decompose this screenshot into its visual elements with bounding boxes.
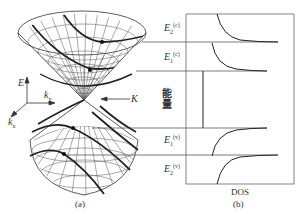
lower-cone xyxy=(30,100,138,195)
caption-b: (b) xyxy=(233,200,244,209)
upper-cone xyxy=(18,11,146,100)
energy-axis-label-cn: 能量 xyxy=(160,88,170,110)
level-label-E1v: E1(v) xyxy=(164,134,180,147)
dos-axis-label: DOS xyxy=(231,188,249,197)
level-label-E1c: E1(c) xyxy=(164,51,180,64)
energy-axis-label: E xyxy=(18,78,24,88)
caption-a: (a) xyxy=(75,200,85,209)
kx-axis-label: kx xyxy=(8,117,15,129)
level-label-E2c: E2(c) xyxy=(164,22,180,35)
level-label-E2v: E2(v) xyxy=(164,163,180,176)
diagram-canvas xyxy=(0,0,301,214)
dirac-point-label: K xyxy=(131,94,138,104)
dos-curves xyxy=(203,14,278,184)
ky-axis-label: ky xyxy=(44,90,51,102)
